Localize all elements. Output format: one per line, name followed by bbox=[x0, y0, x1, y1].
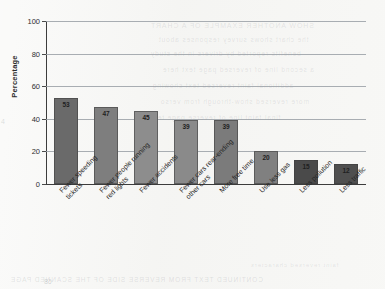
bar-value-label: 39 bbox=[175, 123, 197, 130]
gridline bbox=[46, 86, 366, 87]
bar-value-label: 45 bbox=[135, 114, 157, 121]
y-axis-tick-label: 80 bbox=[18, 49, 40, 58]
y-axis-tick bbox=[42, 86, 46, 87]
bar-value-label: 20 bbox=[255, 154, 277, 161]
y-axis-tick-label: 0 bbox=[18, 180, 40, 189]
y-axis-tick bbox=[42, 151, 46, 152]
y-axis-tick bbox=[42, 119, 46, 120]
y-axis-tick bbox=[42, 54, 46, 55]
y-axis-tick-labels: 020406080100 bbox=[18, 0, 40, 289]
y-axis-tick-label: 20 bbox=[18, 147, 40, 156]
bar-value-label: 39 bbox=[215, 123, 237, 130]
bar-chart: Percentage 020406080100 5347453939201512… bbox=[0, 0, 385, 289]
y-axis-tick-label: 40 bbox=[18, 114, 40, 123]
y-axis-line bbox=[46, 21, 47, 184]
bar-value-label: 53 bbox=[55, 101, 77, 108]
y-axis-tick bbox=[42, 21, 46, 22]
gridline bbox=[46, 21, 366, 22]
bar-value-label: 47 bbox=[95, 110, 117, 117]
y-axis-tick-label: 100 bbox=[18, 17, 40, 26]
gridline bbox=[46, 54, 366, 55]
y-axis-tick-label: 60 bbox=[18, 82, 40, 91]
bar-value-label: 15 bbox=[295, 163, 317, 170]
